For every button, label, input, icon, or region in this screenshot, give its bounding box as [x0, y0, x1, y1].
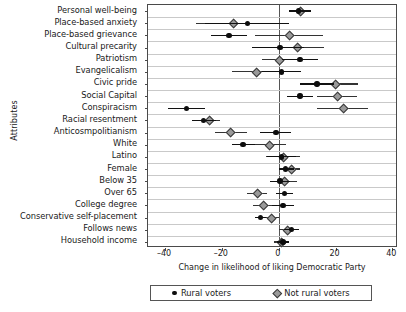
y-axis-category-labels: Personal well-beingPlace-based anxietyPl…: [0, 0, 142, 247]
x-tick-label: –20: [206, 249, 236, 258]
x-tick-label: –40: [149, 249, 179, 258]
circle-marker-icon: [184, 106, 189, 111]
circle-marker-icon: [280, 239, 285, 244]
y-tick-label: Below 35: [99, 176, 137, 185]
x-axis-title: Change in likelihood of liking Democrati…: [147, 263, 397, 272]
circle-marker-icon: [279, 69, 284, 74]
y-tick-mark: [145, 120, 148, 121]
circle-marker-icon: [282, 191, 287, 196]
x-tick-label: 20: [320, 249, 350, 258]
y-tick-mark: [145, 230, 148, 231]
y-tick-mark: [145, 169, 148, 170]
gridline: [148, 54, 396, 55]
diamond-marker-icon: [264, 140, 274, 150]
gridline: [148, 90, 396, 91]
y-tick-label: White: [113, 139, 137, 148]
y-tick-mark: [145, 48, 148, 49]
gridline: [148, 78, 396, 79]
y-tick-label: Racial resentment: [62, 115, 137, 124]
circle-marker-icon: [296, 8, 301, 13]
legend-item-rural: Rural voters: [172, 288, 231, 298]
diamond-marker-icon: [267, 213, 277, 223]
diamond-marker-icon: [251, 67, 261, 77]
y-tick-label: Follows news: [83, 224, 137, 233]
circle-marker-icon: [258, 215, 263, 220]
y-tick-mark: [145, 157, 148, 158]
y-tick-label: Anticosmpolitianism: [54, 127, 137, 136]
gridline: [148, 114, 396, 115]
circle-marker-icon: [314, 81, 319, 86]
gridline: [148, 175, 396, 176]
legend-label-rural: Rural voters: [181, 288, 231, 298]
circle-marker-icon: [277, 45, 282, 50]
y-tick-label: Place-based anxiety: [54, 18, 137, 27]
circle-marker-icon: [277, 178, 282, 183]
y-tick-label: Over 65: [104, 188, 137, 197]
plot-area: [147, 4, 397, 247]
x-tick-label: 0: [263, 249, 293, 258]
y-tick-label: Latino: [112, 151, 137, 160]
circle-marker-icon: [226, 33, 231, 38]
y-tick-label: Evangelicalism: [76, 66, 137, 75]
circle-marker-icon: [279, 154, 284, 159]
y-tick-mark: [145, 193, 148, 194]
circle-marker-icon: [245, 21, 250, 26]
circle-marker-icon: [289, 227, 294, 232]
gridline: [148, 187, 396, 188]
y-tick-label: Household income: [61, 236, 137, 245]
gridline: [148, 29, 396, 30]
y-tick-mark: [145, 96, 148, 97]
diamond-marker-icon: [284, 31, 294, 41]
circle-marker-icon: [273, 130, 278, 135]
y-tick-label: Personal well-being: [57, 6, 137, 15]
gridline: [148, 66, 396, 67]
y-tick-mark: [145, 23, 148, 24]
y-tick-mark: [145, 108, 148, 109]
y-tick-label: Female: [107, 164, 137, 173]
legend-label-not-rural: Not rural voters: [284, 288, 349, 298]
diamond-marker-icon: [332, 92, 342, 102]
y-tick-label: College degree: [75, 200, 137, 209]
diamond-marker-icon: [258, 201, 268, 211]
x-tick-label: 40: [376, 249, 406, 258]
y-tick-mark: [145, 60, 148, 61]
gridline: [148, 212, 396, 213]
circle-marker-icon: [297, 93, 302, 98]
y-tick-label: Civic pride: [94, 78, 137, 87]
gridline: [148, 151, 396, 152]
diamond-marker-icon: [253, 189, 263, 199]
gridline: [148, 139, 396, 140]
gridline: [148, 163, 396, 164]
gridline: [148, 41, 396, 42]
y-tick-label: Place-based grievance: [44, 30, 137, 39]
y-tick-mark: [145, 11, 148, 12]
y-tick-mark: [145, 84, 148, 85]
y-tick-mark: [145, 205, 148, 206]
forest-plot-figure: Attributes Personal well-beingPlace-base…: [0, 0, 406, 312]
y-tick-label: Conspiracism: [82, 103, 137, 112]
y-tick-mark: [145, 145, 148, 146]
circle-marker-icon: [297, 57, 302, 62]
y-tick-label: Cultural precarity: [65, 42, 137, 51]
y-tick-label: Social Capital: [81, 91, 137, 100]
y-tick-label: Conservative self-placement: [20, 212, 137, 221]
legend-item-not-rural: Not rural voters: [274, 288, 350, 298]
circle-marker-icon: [172, 291, 177, 296]
gridline: [148, 199, 396, 200]
gridline: [148, 17, 396, 18]
y-tick-mark: [145, 133, 148, 134]
diamond-marker-icon: [338, 104, 348, 114]
y-tick-mark: [145, 181, 148, 182]
y-tick-label: Patriotism: [96, 54, 137, 63]
diamond-marker-icon: [272, 288, 281, 297]
gridline: [148, 236, 396, 237]
y-tick-mark: [145, 242, 148, 243]
y-tick-mark: [145, 218, 148, 219]
y-tick-mark: [145, 35, 148, 36]
circle-marker-icon: [280, 203, 285, 208]
y-tick-mark: [145, 72, 148, 73]
circle-marker-icon: [240, 142, 245, 147]
gridline: [148, 127, 396, 128]
gridline: [148, 224, 396, 225]
diamond-marker-icon: [226, 128, 236, 138]
